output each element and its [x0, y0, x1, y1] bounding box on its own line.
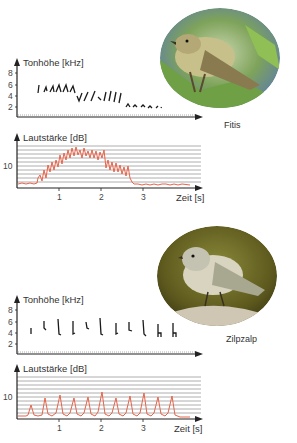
- y-tick-4: 4: [8, 328, 13, 338]
- x-tick-1: 1: [57, 423, 62, 433]
- y-tick-2: 2: [8, 339, 13, 349]
- fitis-photo: [160, 8, 280, 110]
- pitch-axis-label: Tonhöhe [kHz]: [23, 294, 84, 305]
- y-tick-10: 10: [3, 392, 13, 402]
- y-tick-10: 10: [3, 161, 13, 171]
- y-axis-arrow-icon: [14, 133, 20, 141]
- fitis-syllables: [38, 85, 162, 108]
- time-axis-label: Zeit [s]: [174, 423, 203, 434]
- species-name-zilpzalp: Zilpzalp: [226, 334, 257, 344]
- x-tick-1: 1: [57, 192, 62, 202]
- fitis-loudness-chart: Lautstärke [dB] 10 1 2 3 Zeit [s]: [3, 132, 205, 203]
- y-tick-6: 6: [8, 317, 13, 327]
- figure-canvas: 8 6 4 2 Tonhöhe [kHz]: [0, 0, 297, 443]
- zilpzalp-syllables: [31, 318, 176, 337]
- x-tick-2: 2: [99, 192, 104, 202]
- species-name-fitis: Fitis: [224, 120, 241, 130]
- x-axis-arrow-icon: [195, 185, 203, 191]
- y-tick-8: 8: [8, 68, 13, 78]
- x-tick-3: 3: [141, 192, 146, 202]
- y-axis-arrow-icon: [14, 364, 20, 372]
- y-tick-2: 2: [8, 102, 13, 112]
- loudness-axis-label: Lautstärke [dB]: [23, 363, 87, 374]
- pitch-axis-label: Tonhöhe [kHz]: [23, 57, 84, 68]
- y-tick-6: 6: [8, 80, 13, 90]
- x-tick-3: 3: [141, 423, 146, 433]
- x-tick-2: 2: [99, 423, 104, 433]
- loudness-axis-label: Lautstärke [dB]: [23, 132, 87, 143]
- zilpzalp-photo: [157, 226, 277, 330]
- y-tick-8: 8: [8, 305, 13, 315]
- time-axis-label: Zeit [s]: [176, 192, 205, 203]
- x-axis-arrow-icon: [195, 416, 203, 422]
- x-axis-arrow-icon: [195, 114, 203, 120]
- y-axis-arrow-icon: [14, 295, 20, 303]
- zilpzalp-loudness-chart: Lautstärke [dB] 10 1 2 3 Zeit [s]: [3, 363, 203, 434]
- y-tick-4: 4: [8, 91, 13, 101]
- x-axis-arrow-icon: [195, 351, 203, 357]
- y-axis-arrow-icon: [14, 58, 20, 66]
